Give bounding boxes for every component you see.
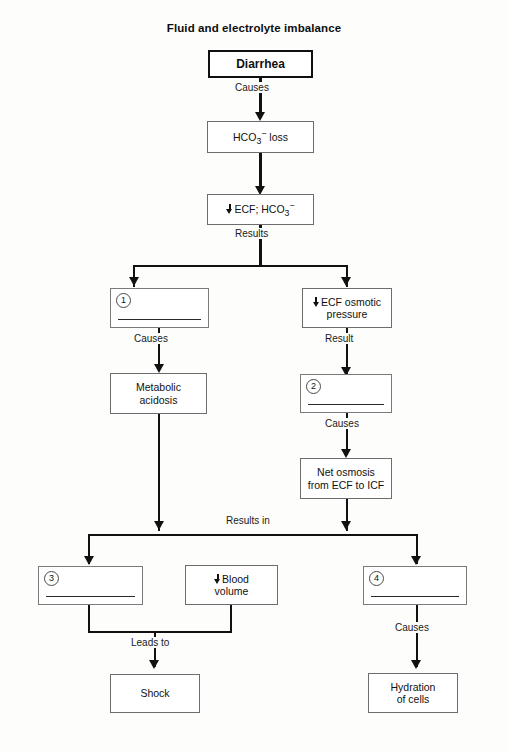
edge-label-causes-4: Causes <box>392 622 432 633</box>
bus-level-1 <box>133 265 348 267</box>
node-hco3-loss-label: HCO3− loss <box>230 127 291 147</box>
edge-blood-volume-down <box>230 605 232 633</box>
node-metabolic-acidosis-label: Metabolic acidosis <box>133 381 184 406</box>
node-diarrhea-label: Diarrhea <box>233 58 288 71</box>
edge-label-causes-2: Causes <box>131 333 171 344</box>
edge-label-results: Results <box>232 228 271 239</box>
arrowhead-shock <box>149 660 159 669</box>
answer-line-4 <box>371 596 459 597</box>
flowchart-diagram: Fluid and electrolyte imbalance Diarrhea… <box>0 0 508 753</box>
arrowhead-bus-left <box>154 521 164 530</box>
edge-label-causes-3: Causes <box>322 418 362 429</box>
blank-number-4: 4 <box>369 571 384 586</box>
bus-level-3 <box>88 534 418 536</box>
edge-blank4-to-hydration <box>416 605 418 667</box>
blank-answer-box-4[interactable]: 4 <box>363 566 467 605</box>
node-shock: Shock <box>110 674 200 713</box>
blank-answer-box-1[interactable]: 1 <box>110 288 209 328</box>
arrowhead-blank4 <box>411 556 421 565</box>
blank-number-3: 3 <box>44 571 59 586</box>
node-diarrhea: Diarrhea <box>208 50 313 78</box>
node-ecf-hco3-label: ECF; HCO3− <box>223 199 297 219</box>
arrowhead-blank3 <box>84 556 94 565</box>
node-net-osmosis-label: Net osmosis from ECF to ICF <box>305 466 387 491</box>
merge-bus-shock <box>88 631 232 633</box>
decrease-arrow-icon-3 <box>214 574 221 585</box>
node-hydration-of-cells: Hydration of cells <box>368 673 458 713</box>
node-shock-label: Shock <box>137 687 172 700</box>
edge-blank3-down <box>88 605 90 633</box>
node-ecf-osmotic-pressure-label: ECF osmotic pressure <box>310 296 384 321</box>
blank-number-1: 1 <box>116 293 131 308</box>
node-ecf-hco3: ECF; HCO3− <box>207 194 314 225</box>
answer-line-2 <box>308 404 384 405</box>
edge-label-results-in: Results in <box>223 515 273 526</box>
decrease-arrow-icon-2 <box>313 297 320 308</box>
answer-line-3 <box>46 596 135 597</box>
arrowhead-bus-right <box>341 521 351 530</box>
node-metabolic-acidosis: Metabolic acidosis <box>110 373 207 414</box>
arrowhead-net-osmosis <box>341 449 351 458</box>
arrowhead-hco3 <box>255 112 265 121</box>
edge-label-result: Result <box>322 333 356 344</box>
arrowhead-ecf-osmotic <box>341 277 351 286</box>
arrowhead-blank1 <box>129 277 139 286</box>
arrowhead-metabolic <box>154 364 164 373</box>
arrowhead-hydration <box>411 660 421 669</box>
edge-label-causes-1: Causes <box>232 82 272 93</box>
edge-label-leads-to: Leads to <box>128 637 172 648</box>
node-hydration-of-cells-label: Hydration of cells <box>388 681 439 706</box>
blank-number-2: 2 <box>306 379 321 394</box>
blank-answer-box-2[interactable]: 2 <box>300 374 392 413</box>
decrease-arrow-icon <box>226 204 233 215</box>
node-blood-volume: Blood volume <box>185 565 278 605</box>
page-title: Fluid and electrolyte imbalance <box>0 22 508 34</box>
blank-answer-box-3[interactable]: 3 <box>38 566 143 605</box>
answer-line-1 <box>118 319 201 320</box>
edge-metabolic-to-bus <box>158 414 160 531</box>
node-ecf-osmotic-pressure: ECF osmotic pressure <box>302 288 392 328</box>
node-hco3-loss: HCO3− loss <box>207 121 314 153</box>
node-blood-volume-label: Blood volume <box>211 573 252 598</box>
node-net-osmosis: Net osmosis from ECF to ICF <box>300 458 392 499</box>
